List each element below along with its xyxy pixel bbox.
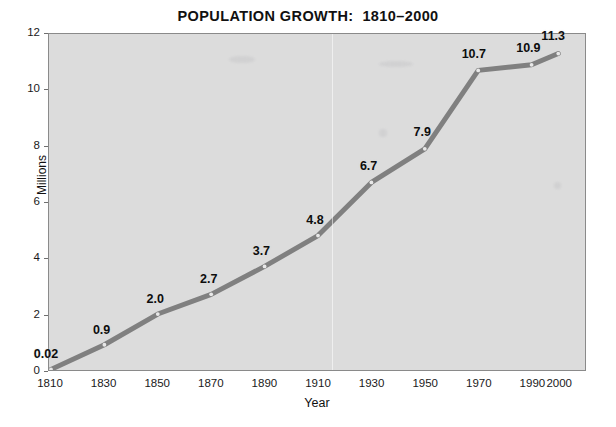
plot-area xyxy=(48,33,586,371)
data-point-label: 6.7 xyxy=(360,159,377,173)
data-point-label: 10.9 xyxy=(516,41,540,55)
y-tick-label: 2 xyxy=(6,309,40,320)
x-tick-label: 1830 xyxy=(74,377,134,389)
data-point-label: 4.8 xyxy=(306,213,323,227)
chart-title: POPULATION GROWTH: 1810–2000 xyxy=(0,8,616,24)
y-tick-mark xyxy=(44,371,48,372)
series-line xyxy=(51,54,558,370)
data-point-marker xyxy=(530,63,534,67)
y-tick-label: 4 xyxy=(6,252,40,263)
data-point-label: 2.7 xyxy=(200,272,217,286)
y-tick-label: 0 xyxy=(6,365,40,376)
data-point-label: 3.7 xyxy=(253,244,270,258)
y-tick-label: 8 xyxy=(6,140,40,151)
x-tick-label: 2000 xyxy=(529,377,589,389)
x-tick-label: 1870 xyxy=(181,377,241,389)
data-point-marker xyxy=(263,265,267,269)
data-point-label: 0.02 xyxy=(34,347,58,361)
x-tick-label: 1950 xyxy=(395,377,455,389)
x-tick-label: 1810 xyxy=(20,377,80,389)
x-tick-label: 1910 xyxy=(288,377,348,389)
data-point-label: 10.7 xyxy=(462,47,486,61)
x-axis-title: Year xyxy=(48,396,586,410)
x-tick-label: 1890 xyxy=(234,377,294,389)
data-point-marker xyxy=(156,312,160,316)
y-tick-label: 6 xyxy=(6,196,40,207)
y-tick-label: 12 xyxy=(6,27,40,38)
x-tick-label: 1850 xyxy=(127,377,187,389)
series-line-group xyxy=(49,34,585,370)
x-tick-label: 1930 xyxy=(342,377,402,389)
data-point-label: 2.0 xyxy=(146,292,163,306)
x-tick-label: 1970 xyxy=(449,377,509,389)
data-point-marker xyxy=(370,181,374,185)
data-point-marker xyxy=(476,68,480,72)
population-growth-chart: POPULATION GROWTH: 1810–2000 Millions Ye… xyxy=(0,0,616,427)
data-point-label: 0.9 xyxy=(93,323,110,337)
data-point-marker xyxy=(209,292,213,296)
data-point-label: 11.3 xyxy=(541,29,565,43)
y-tick-label: 10 xyxy=(6,83,40,94)
series-markers xyxy=(49,52,560,371)
data-point-marker xyxy=(316,234,320,238)
data-point-label: 7.9 xyxy=(413,125,430,139)
data-point-marker xyxy=(423,147,427,151)
data-point-marker xyxy=(556,52,560,56)
y-axis-title: Millions xyxy=(35,115,49,235)
data-point-marker xyxy=(103,343,107,347)
